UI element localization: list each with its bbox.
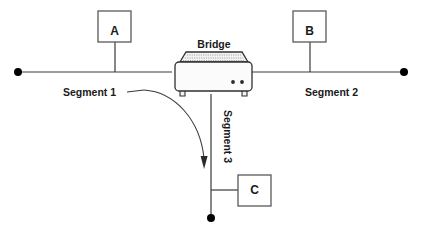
station-a-label: A — [110, 24, 119, 38]
segment-1-leader-line — [127, 90, 144, 92]
station-b-label: B — [305, 24, 314, 38]
bridge-chassis[interactable] — [175, 62, 252, 91]
network-diagram: A B C Bridge Segment 1 Segment 2 Segment — [0, 0, 422, 238]
segment-1-label: Segment 1 — [63, 86, 116, 98]
diagram-canvas: A B C Bridge Segment 1 Segment 2 Segment — [0, 0, 422, 238]
bridge-device-label: Bridge — [197, 38, 230, 50]
annotation-curved-arrow — [144, 90, 204, 158]
segment-3-terminator-dot — [207, 214, 215, 222]
segment-2-label: Segment 2 — [305, 86, 358, 98]
bridge-led-2 — [240, 80, 244, 84]
segment-3-label: Segment 3 — [222, 110, 234, 163]
segment-1-terminator-dot — [14, 68, 22, 76]
annotation-arrow-head — [201, 156, 208, 169]
station-c-label: C — [250, 183, 259, 197]
bridge-led-1 — [231, 80, 235, 84]
segment-2-terminator-dot — [400, 68, 408, 76]
